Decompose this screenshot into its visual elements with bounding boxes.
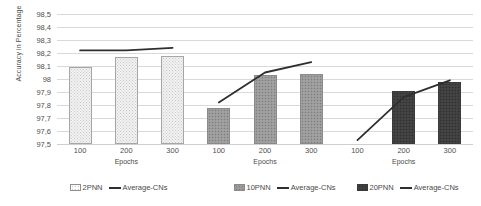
legend-swatch-icon [70,184,81,191]
legend-group-10PNN[interactable]: 10PNNAverage-CNs [234,183,336,192]
y-tick-label: 98,3 [36,36,51,45]
legend-line-label: Average-CNs [414,183,459,192]
legend-bar-label: 20PNN [370,183,394,192]
y-tick-label: 97,9 [36,88,51,97]
bar-20PNN-200 [392,91,415,144]
y-tick-label: 98,4 [36,23,51,32]
x-tick-label: 200 [259,146,272,155]
y-tick-label: 98 [43,75,51,84]
legend-swatch-icon [234,184,245,191]
bar-2PNN-100 [69,67,92,144]
y-tick-label: 97,8 [36,101,51,110]
legend-group-20PNN[interactable]: 20PNNAverage-CNs [357,183,459,192]
x-tick-label: 100 [351,146,364,155]
gridline [57,53,473,54]
bar-10PNN-300 [300,74,323,144]
y-axis-tick-labels: 98,598,498,398,298,19897,997,897,797,697… [22,14,55,144]
x-axis-title: Epochs [392,158,415,165]
x-axis: 100200300Epochs100200300Epochs100200300E… [57,146,473,172]
legend-line-label: Average-CNs [291,183,336,192]
gridline [57,144,473,145]
bar-10PNN-100 [207,108,230,144]
line-average-cns-2PNN [80,48,172,51]
x-tick-label: 100 [74,146,87,155]
legend-group-2PNN[interactable]: 2PNNAverage-CNs [70,183,167,192]
legend-swatch-icon [357,184,368,191]
x-axis-title: Epochs [115,158,138,165]
x-tick-label: 100 [213,146,226,155]
chart-legend: 2PNNAverage-CNs10PNNAverage-CNs20PNNAver… [0,183,481,199]
legend-line-icon [109,187,121,189]
y-axis-title: Accuracy in Percentage [15,0,22,104]
x-tick-label: 300 [305,146,318,155]
x-axis-title: Epochs [253,158,276,165]
legend-line-icon [400,187,412,189]
gridline [57,27,473,28]
y-tick-label: 98,5 [36,10,51,19]
gridline [57,14,473,15]
bar-20PNN-300 [438,82,461,144]
y-tick-label: 98,1 [36,62,51,71]
bar-2PNN-300 [161,56,184,144]
y-tick-label: 97,5 [36,140,51,149]
accuracy-vs-epochs-chart: Accuracy in Percentage 98,598,498,398,29… [0,0,481,206]
legend-bar-label: 10PNN [247,183,271,192]
bar-2PNN-200 [115,57,138,144]
x-tick-label: 300 [444,146,457,155]
legend-line-icon [277,187,289,189]
legend-line-label: Average-CNs [123,183,168,192]
legend-bar-label: 2PNN [83,183,103,192]
gridline [57,40,473,41]
y-tick-label: 98,2 [36,49,51,58]
x-tick-label: 200 [120,146,133,155]
plot-area [57,14,473,144]
bar-10PNN-200 [254,75,277,144]
x-tick-label: 200 [397,146,410,155]
y-tick-label: 97,6 [36,127,51,136]
x-tick-label: 300 [166,146,179,155]
y-tick-label: 97,7 [36,114,51,123]
